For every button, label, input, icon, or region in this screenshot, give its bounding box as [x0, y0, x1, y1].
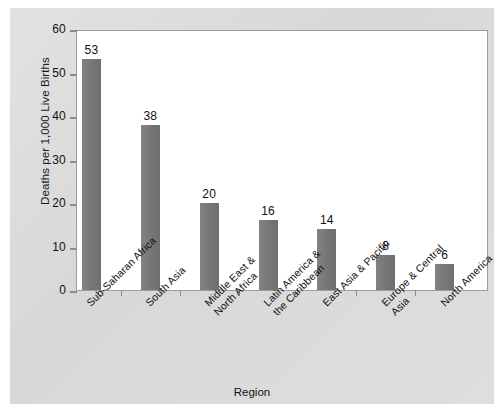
bar	[200, 203, 219, 290]
y-tick-label: 50	[32, 66, 66, 80]
y-tick-label: 40	[32, 109, 66, 123]
y-tick-mark	[70, 117, 77, 119]
y-tick-mark	[70, 291, 77, 293]
x-tick-mark	[356, 290, 357, 296]
bar-value-label: 20	[189, 187, 229, 201]
y-tick-label: 10	[32, 240, 66, 254]
y-tick-label: 30	[32, 153, 66, 167]
y-tick-label: 0	[32, 283, 66, 297]
y-axis-title: Deaths per 1,000 Live Births	[39, 1, 51, 261]
y-tick-mark	[70, 248, 77, 250]
y-tick-mark	[70, 30, 77, 32]
bar	[259, 220, 278, 290]
x-axis-title: Region	[10, 386, 494, 398]
scanned-page-sheet: Deaths per 1,000 Live Births Region 0102…	[10, 8, 494, 404]
bar	[141, 125, 160, 290]
figure-root: Deaths per 1,000 Live Births Region 0102…	[0, 0, 498, 416]
y-tick-mark	[70, 74, 77, 76]
x-tick-mark	[121, 290, 122, 296]
x-tick-mark	[180, 290, 181, 296]
bar-value-label: 53	[71, 43, 111, 57]
y-tick-label: 60	[32, 22, 66, 36]
page-bottom-edge	[0, 404, 498, 416]
y-tick-mark	[70, 161, 77, 163]
bar-value-label: 38	[130, 109, 170, 123]
y-tick-label: 20	[32, 196, 66, 210]
bar-value-label: 16	[248, 204, 288, 218]
bar-value-label: 14	[307, 213, 347, 227]
bar	[82, 59, 101, 290]
y-tick-mark	[70, 204, 77, 206]
